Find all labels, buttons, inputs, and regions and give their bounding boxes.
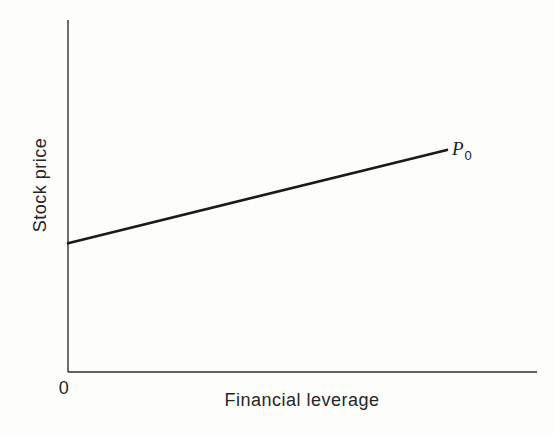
line-end-label-p0: P0: [452, 138, 472, 163]
chart-figure: Stock price Financial leverage 0 P0: [0, 0, 555, 435]
y-axis-label: Stock price: [30, 138, 51, 233]
chart-canvas: [0, 0, 555, 435]
x-axis-label: Financial leverage: [224, 390, 379, 411]
p0-label-subscript: 0: [465, 148, 472, 163]
stock-price-line: [68, 150, 447, 243]
origin-label: 0: [59, 378, 70, 399]
p0-label-letter: P: [452, 138, 464, 159]
